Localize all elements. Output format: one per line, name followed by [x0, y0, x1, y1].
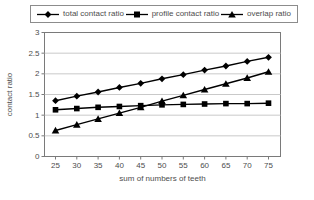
y-tick-label: 3 — [35, 28, 40, 37]
y-tick-label: 2.5 — [28, 49, 40, 58]
chart-svg: 00.511.522.532530354045505560657075conta… — [0, 0, 314, 200]
y-tick-label: 2 — [35, 69, 40, 78]
x-tick-label: 35 — [94, 161, 103, 170]
x-tick-label: 55 — [179, 161, 188, 170]
square-marker — [74, 106, 80, 112]
y-axis-title: contact ratio — [5, 72, 14, 116]
line-chart-figure: total contact ratio profile contact rati… — [0, 0, 314, 200]
y-tick-label: 1 — [35, 111, 40, 120]
y-axis: 00.511.522.53 — [28, 28, 44, 161]
square-marker — [117, 104, 123, 110]
square-marker — [181, 102, 187, 108]
x-axis: 2530354045505560657075 — [51, 157, 273, 170]
x-tick-label: 25 — [51, 161, 60, 170]
square-marker — [223, 101, 229, 107]
x-tick-label: 70 — [243, 161, 252, 170]
x-tick-label: 40 — [115, 161, 124, 170]
x-tick-label: 50 — [158, 161, 167, 170]
y-tick-label: 0.5 — [28, 131, 40, 140]
square-marker — [53, 107, 59, 113]
y-tick-label: 0 — [35, 152, 40, 161]
square-marker — [95, 105, 101, 111]
x-axis-title: sum of numbers of teeth — [119, 174, 205, 183]
x-tick-label: 65 — [221, 161, 230, 170]
y-tick-label: 1.5 — [28, 90, 40, 99]
x-tick-label: 45 — [136, 161, 145, 170]
square-marker — [202, 101, 208, 107]
x-tick-label: 75 — [264, 161, 273, 170]
square-marker — [266, 100, 272, 106]
x-tick-label: 60 — [200, 161, 209, 170]
square-marker — [244, 101, 250, 107]
x-tick-label: 30 — [72, 161, 81, 170]
